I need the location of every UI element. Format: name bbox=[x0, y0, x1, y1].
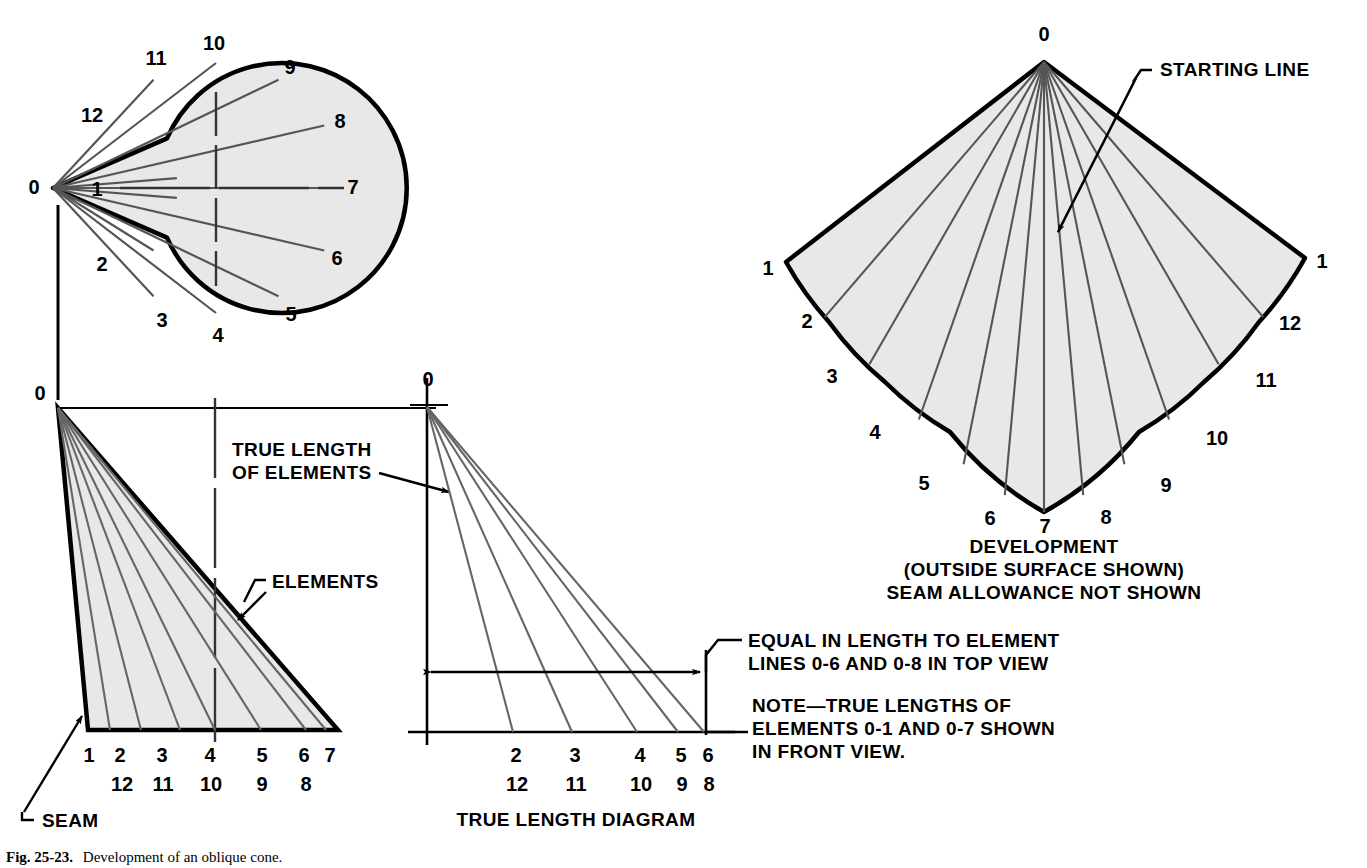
front-view-base-label-10: 10 bbox=[200, 773, 222, 795]
tld-base-label-5: 5 bbox=[675, 744, 686, 766]
development-label-11: 11 bbox=[1255, 369, 1276, 391]
top-view-group: 0 1 2 3 4 5 6 7 8 9 10 11 12 bbox=[28, 32, 406, 400]
tld-base-label-2: 2 bbox=[510, 744, 521, 766]
technical-drawing-svg: 0 1 2 3 4 5 6 7 8 9 10 11 12 TRUE LENGTH bbox=[0, 0, 1367, 868]
tld-base-label-12: 12 bbox=[506, 773, 528, 795]
tld-base-label-10: 10 bbox=[630, 773, 652, 795]
figure-caption: Fig. 25-23. Development of an oblique co… bbox=[6, 849, 282, 865]
front-view-base-label-4: 4 bbox=[204, 744, 216, 766]
development-label-3: 3 bbox=[826, 365, 837, 387]
tld-base-label-9: 9 bbox=[676, 773, 687, 795]
tld-apex-label: 0 bbox=[422, 368, 433, 390]
front-view-base-label-2: 2 bbox=[114, 744, 125, 766]
tld-note-line2: ELEMENTS 0-1 AND 0-7 SHOWN bbox=[752, 718, 1055, 739]
front-view-elements-label: ELEMENTS bbox=[272, 571, 379, 592]
tld-base-label-4: 4 bbox=[634, 744, 646, 766]
tld-base-label-3: 3 bbox=[569, 744, 580, 766]
top-view-label-8: 8 bbox=[334, 110, 345, 132]
drawing-sheet: 0 1 2 3 4 5 6 7 8 9 10 11 12 TRUE LENGTH bbox=[0, 0, 1367, 868]
development-title-line1: DEVELOPMENT bbox=[969, 536, 1118, 557]
front-view-base-label-12: 12 bbox=[111, 773, 133, 795]
development-label-4: 4 bbox=[869, 421, 881, 443]
top-view-label-2: 2 bbox=[96, 253, 107, 275]
seam-leader bbox=[22, 812, 34, 820]
development-starting-line-label: STARTING LINE bbox=[1160, 59, 1309, 80]
figure-caption-text: Development of an oblique cone. bbox=[83, 849, 283, 865]
front-view-seam-label: SEAM bbox=[42, 810, 99, 831]
development-label-10: 10 bbox=[1206, 427, 1228, 449]
top-view-label-10: 10 bbox=[203, 32, 225, 54]
front-view-apex-label: 0 bbox=[34, 382, 45, 404]
tld-note-line3: IN FRONT VIEW. bbox=[752, 741, 905, 762]
development-label-9: 9 bbox=[1160, 474, 1171, 496]
top-view-label-7: 7 bbox=[347, 176, 358, 198]
top-view-label-12: 12 bbox=[81, 104, 103, 126]
top-view-label-4: 4 bbox=[212, 324, 224, 346]
development-label-7: 7 bbox=[1039, 515, 1050, 537]
tld-elements bbox=[427, 407, 704, 732]
front-view-true-length-label-line1: TRUE LENGTH bbox=[232, 439, 372, 460]
development-title-line3: SEAM ALLOWANCE NOT SHOWN bbox=[887, 582, 1202, 603]
front-view-base-label-8: 8 bbox=[300, 773, 311, 795]
development-apex-label: 0 bbox=[1038, 23, 1049, 45]
tld-note-line1: NOTE—TRUE LENGTHS OF bbox=[752, 695, 1011, 716]
tld-base-label-11: 11 bbox=[565, 773, 586, 795]
elements-leader bbox=[244, 580, 266, 602]
figure-caption-number: Fig. 25-23. bbox=[6, 849, 73, 865]
tld-base-label-8: 8 bbox=[703, 773, 714, 795]
front-view-true-length-label-line2: OF ELEMENTS bbox=[232, 462, 372, 483]
front-view-base-label-5: 5 bbox=[256, 744, 267, 766]
development-label-1-left: 1 bbox=[762, 257, 773, 279]
top-view-label-9: 9 bbox=[284, 56, 295, 78]
development-label-6: 6 bbox=[984, 507, 995, 529]
seam-leader-arrow bbox=[24, 716, 82, 812]
development-label-8: 8 bbox=[1100, 506, 1111, 528]
front-view-base-label-6: 6 bbox=[298, 744, 309, 766]
development-label-5: 5 bbox=[918, 472, 929, 494]
development-label-2: 2 bbox=[801, 310, 812, 332]
tld-dimension-note-line2: LINES 0-6 AND 0-8 IN TOP VIEW bbox=[748, 653, 1049, 674]
tld-title: TRUE LENGTH DIAGRAM bbox=[457, 809, 696, 830]
front-view-base-label-9: 9 bbox=[256, 773, 267, 795]
tld-dimension-leader bbox=[706, 640, 742, 672]
development-label-12: 12 bbox=[1279, 312, 1301, 334]
development-group: STARTING LINE 0 1 2 3 4 5 6 7 8 9 10 11 … bbox=[762, 23, 1327, 603]
front-view-base-label-7: 7 bbox=[324, 744, 335, 766]
top-view-label-11: 11 bbox=[145, 47, 166, 69]
true-length-leader bbox=[379, 473, 449, 492]
top-view-label-5: 5 bbox=[285, 303, 296, 325]
development-label-1-right: 1 bbox=[1316, 250, 1327, 272]
tld-base-label-6: 6 bbox=[702, 744, 713, 766]
front-view-base-label-3: 3 bbox=[156, 744, 167, 766]
development-title-line2: (OUTSIDE SURFACE SHOWN) bbox=[904, 559, 1184, 580]
front-view-base-label-1: 1 bbox=[83, 744, 94, 766]
top-view-label-3: 3 bbox=[156, 309, 167, 331]
tld-dimension-note-line1: EQUAL IN LENGTH TO ELEMENT bbox=[748, 630, 1060, 651]
top-view-label-6: 6 bbox=[331, 247, 342, 269]
front-view-base-label-11: 11 bbox=[152, 773, 173, 795]
elements-leader-arrow bbox=[238, 592, 266, 620]
front-view-group: TRUE LENGTH OF ELEMENTS ELEMENTS SEAM 1 … bbox=[22, 382, 449, 831]
top-view-label-1: 1 bbox=[91, 178, 102, 200]
top-view-label-0: 0 bbox=[28, 176, 39, 198]
